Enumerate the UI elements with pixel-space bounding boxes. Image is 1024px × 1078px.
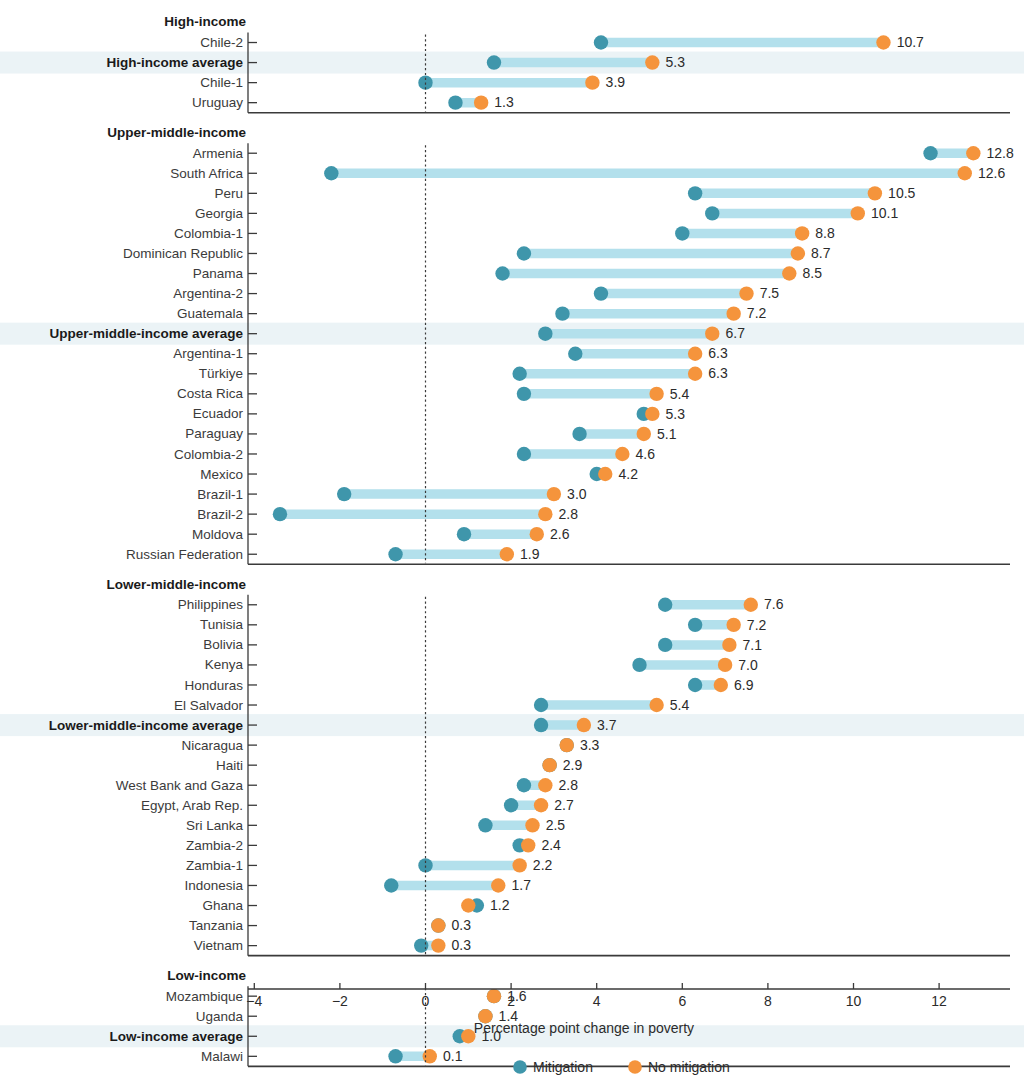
- value-label: 1.7: [511, 877, 531, 893]
- row-label-chile-1: Chile-1: [200, 75, 243, 90]
- value-label: 5.1: [657, 426, 677, 442]
- value-label: 4.6: [636, 446, 656, 462]
- row-label-philippines: Philippines: [178, 597, 244, 612]
- row-label-dominican-republic: Dominican Republic: [123, 246, 243, 261]
- no-mitigation-dot: [966, 146, 980, 160]
- group-heading-lower-middle-income: Lower-middle-income: [106, 577, 246, 592]
- row-label-armenia: Armenia: [193, 146, 244, 161]
- mitigation-dot: [388, 547, 402, 561]
- row-label-argentina-2: Argentina-2: [173, 286, 243, 301]
- x-tick-label: −2: [332, 993, 348, 1009]
- mitigation-dot: [594, 35, 608, 49]
- no-mitigation-dot: [560, 738, 574, 752]
- legend-swatch-mitigation: [513, 1060, 527, 1074]
- no-mitigation-dot: [782, 266, 796, 280]
- value-label: 10.5: [888, 185, 915, 201]
- row-label-argentina-1: Argentina-1: [173, 346, 243, 361]
- mitigation-dot: [504, 798, 518, 812]
- mitigation-dot: [495, 266, 509, 280]
- no-mitigation-dot: [688, 367, 702, 381]
- value-label: 5.4: [670, 697, 690, 713]
- no-mitigation-dot: [461, 898, 475, 912]
- x-tick-label: 6: [678, 993, 686, 1009]
- value-label: 2.8: [559, 506, 579, 522]
- row-label-high-income-average: High-income average: [106, 55, 243, 70]
- row-label-uganda: Uganda: [196, 1009, 244, 1024]
- mitigation-dot: [923, 146, 937, 160]
- mitigation-dot: [632, 658, 646, 672]
- value-label: 0.3: [452, 937, 472, 953]
- value-label: 10.1: [871, 205, 898, 221]
- mitigation-dot: [572, 427, 586, 441]
- mitigation-dot: [414, 938, 428, 952]
- row-label-west-bank-and-gaza: West Bank and Gaza: [116, 778, 244, 793]
- value-label: 2.2: [533, 857, 553, 873]
- mitigation-dot: [384, 878, 398, 892]
- value-label: 3.0: [567, 486, 587, 502]
- legend-label-no-mitigation: No mitigation: [648, 1059, 730, 1075]
- value-label: 4.2: [618, 466, 638, 482]
- x-tick-label: 12: [931, 993, 947, 1009]
- row-label-t-rkiye: Türkiye: [199, 366, 243, 381]
- no-mitigation-dot: [958, 166, 972, 180]
- row-label-tunisia: Tunisia: [200, 617, 244, 632]
- no-mitigation-dot: [868, 186, 882, 200]
- row-label-honduras: Honduras: [184, 678, 243, 693]
- value-label: 5.3: [666, 406, 686, 422]
- no-mitigation-dot: [615, 447, 629, 461]
- mitigation-dot: [534, 718, 548, 732]
- mitigation-dot: [538, 326, 552, 340]
- value-label: 1.3: [494, 94, 514, 110]
- row-label-zambia-1: Zambia-1: [186, 858, 243, 873]
- legend-swatch-no-mitigation: [628, 1060, 642, 1074]
- no-mitigation-dot: [530, 527, 544, 541]
- row-label-ghana: Ghana: [202, 898, 243, 913]
- row-label-zambia-2: Zambia-2: [186, 838, 243, 853]
- row-label-colombia-1: Colombia-1: [174, 226, 243, 241]
- mitigation-dot: [448, 95, 462, 109]
- row-label-haiti: Haiti: [216, 758, 243, 773]
- row-label-brazil-1: Brazil-1: [197, 487, 243, 502]
- value-label: 5.3: [666, 54, 686, 70]
- no-mitigation-dot: [542, 758, 556, 772]
- value-label: 10.7: [897, 34, 924, 50]
- no-mitigation-dot: [512, 858, 526, 872]
- value-label: 0.3: [452, 917, 472, 933]
- x-tick-label: 2: [507, 993, 515, 1009]
- value-label: 7.2: [747, 305, 767, 321]
- row-label-upper-middle-income-average: Upper-middle-income average: [49, 326, 243, 341]
- poverty-change-dumbbell-chart: High-incomeChile-210.7High-income averag…: [0, 0, 1024, 1078]
- row-label-uruguay: Uruguay: [192, 95, 243, 110]
- value-label: 2.9: [563, 757, 583, 773]
- no-mitigation-dot: [547, 487, 561, 501]
- no-mitigation-dot: [431, 938, 445, 952]
- mitigation-dot: [517, 778, 531, 792]
- row-label-paraguay: Paraguay: [185, 426, 243, 441]
- no-mitigation-dot: [423, 1049, 437, 1063]
- row-label-guatemala: Guatemala: [177, 306, 244, 321]
- no-mitigation-dot: [795, 226, 809, 240]
- no-mitigation-dot: [585, 75, 599, 89]
- row-label-georgia: Georgia: [195, 206, 244, 221]
- x-tick-label: −4: [246, 993, 262, 1009]
- row-label-malawi: Malawi: [201, 1049, 243, 1064]
- no-mitigation-dot: [791, 246, 805, 260]
- row-label-egypt-arab-rep-: Egypt, Arab Rep.: [141, 798, 243, 813]
- no-mitigation-dot: [714, 678, 728, 692]
- value-label: 7.0: [738, 657, 758, 673]
- row-label-mozambique: Mozambique: [166, 989, 243, 1004]
- value-label: 3.9: [606, 74, 626, 90]
- no-mitigation-dot: [649, 698, 663, 712]
- row-label-brazil-2: Brazil-2: [197, 507, 243, 522]
- no-mitigation-dot: [637, 427, 651, 441]
- row-label-russian-federation: Russian Federation: [126, 547, 243, 562]
- no-mitigation-dot: [744, 598, 758, 612]
- value-label: 2.6: [550, 526, 570, 542]
- group-heading-upper-middle-income: Upper-middle-income: [107, 125, 246, 140]
- value-label: 5.4: [670, 386, 690, 402]
- mitigation-dot: [337, 487, 351, 501]
- no-mitigation-dot: [705, 326, 719, 340]
- value-label: 7.2: [747, 617, 767, 633]
- mitigation-dot: [324, 166, 338, 180]
- no-mitigation-dot: [876, 35, 890, 49]
